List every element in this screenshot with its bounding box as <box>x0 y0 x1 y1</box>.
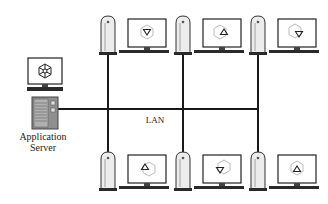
workstation-top-3 <box>249 15 328 57</box>
server-tower <box>31 96 59 130</box>
lan-drop-1 <box>107 55 109 153</box>
server-monitor <box>26 57 64 93</box>
server-label: Application Server <box>6 131 80 153</box>
workstation-top-2 <box>174 15 254 57</box>
lan-label: LAN <box>140 115 170 126</box>
workstation-bottom-2 <box>174 151 254 193</box>
workstation-bottom-3 <box>249 151 328 193</box>
lan-drop-2 <box>182 55 184 153</box>
lan-backbone <box>58 108 259 110</box>
workstation-top-1 <box>99 15 179 57</box>
workstation-bottom-1 <box>99 151 179 193</box>
server-label-line2: Server <box>6 142 80 153</box>
server-label-line1: Application <box>6 131 80 142</box>
lan-drop-3 <box>257 55 259 153</box>
